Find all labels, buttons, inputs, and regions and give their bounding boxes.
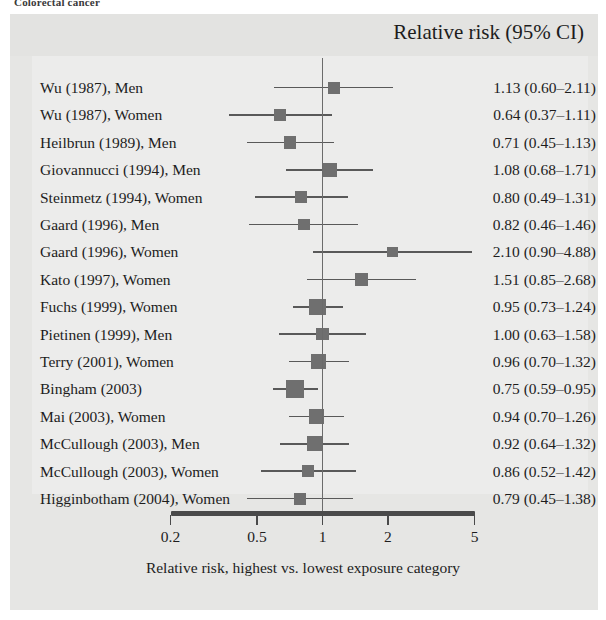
- study-label: Gaard (1996), Women: [40, 238, 178, 266]
- x-axis-tick: [256, 515, 257, 525]
- point-estimate-marker: [307, 436, 322, 451]
- point-estimate-marker: [298, 219, 310, 231]
- study-label: McCullough (2003), Men: [40, 430, 200, 458]
- effect-estimate-value: 0.96 (0.70–1.32): [493, 348, 596, 376]
- x-axis-tick-label: 1: [319, 528, 327, 546]
- x-axis-tick-label: 5: [471, 528, 479, 546]
- study-label: Mai (2003), Women: [40, 403, 165, 431]
- forest-row: Steinmetz (1994), Women0.80 (0.49–1.31): [0, 184, 606, 212]
- forest-row: Fuchs (1999), Women0.95 (0.73–1.24): [0, 293, 606, 321]
- reference-line-null-effect: [322, 58, 323, 520]
- forest-row: Giovannucci (1994), Men1.08 (0.68–1.71): [0, 156, 606, 184]
- x-axis-tick: [387, 515, 388, 525]
- point-estimate-marker: [274, 109, 286, 121]
- forest-row: Gaard (1996), Men0.82 (0.46–1.46): [0, 211, 606, 239]
- study-label: Steinmetz (1994), Women: [40, 184, 202, 212]
- point-estimate-marker: [302, 465, 314, 477]
- study-label: Higginbotham (2004), Women: [40, 485, 230, 513]
- forest-row: Higginbotham (2004), Women0.79 (0.45–1.3…: [0, 485, 606, 513]
- point-estimate-marker: [286, 380, 304, 398]
- effect-estimate-value: 1.08 (0.68–1.71): [493, 156, 596, 184]
- forest-row: McCullough (2003), Women0.86 (0.52–1.42): [0, 458, 606, 486]
- effect-estimate-value: 0.82 (0.46–1.46): [493, 211, 596, 239]
- forest-row: Kato (1997), Women1.51 (0.85–2.68): [0, 266, 606, 294]
- x-axis-tick: [170, 515, 171, 525]
- point-estimate-marker: [355, 273, 367, 285]
- study-label: Gaard (1996), Men: [40, 211, 159, 239]
- x-axis-tick-label: 0.5: [247, 528, 266, 546]
- effect-estimate-value: 0.86 (0.52–1.42): [493, 458, 596, 486]
- study-label: Pietinen (1999), Men: [40, 321, 172, 349]
- x-axis-tick: [474, 515, 475, 525]
- effect-estimate-value: 2.10 (0.90–4.88): [493, 238, 596, 266]
- point-estimate-marker: [387, 247, 398, 258]
- effect-estimate-value: 0.75 (0.59–0.95): [493, 375, 596, 403]
- forest-row: Pietinen (1999), Men1.00 (0.63–1.58): [0, 321, 606, 349]
- study-label: Wu (1987), Women: [40, 101, 162, 129]
- point-estimate-marker: [311, 354, 326, 369]
- forest-row: Heilbrun (1989), Men0.71 (0.45–1.13): [0, 129, 606, 157]
- forest-row: Wu (1987), Women0.64 (0.37–1.11): [0, 101, 606, 129]
- point-estimate-marker: [328, 82, 340, 94]
- effect-estimate-value: 1.00 (0.63–1.58): [493, 321, 596, 349]
- x-axis-tick-label: 2: [384, 528, 392, 546]
- effect-estimate-value: 0.64 (0.37–1.11): [493, 101, 596, 129]
- study-label: Bingham (2003): [40, 375, 142, 403]
- study-label: Heilbrun (1989), Men: [40, 129, 176, 157]
- study-label: Kato (1997), Women: [40, 266, 171, 294]
- forest-row: Terry (2001), Women0.96 (0.70–1.32): [0, 348, 606, 376]
- study-label: Wu (1987), Men: [40, 74, 143, 102]
- point-estimate-marker: [294, 493, 306, 505]
- forest-row: Gaard (1996), Women2.10 (0.90–4.88): [0, 238, 606, 266]
- effect-estimate-value: 1.51 (0.85–2.68): [493, 266, 596, 294]
- effect-estimate-value: 0.80 (0.49–1.31): [493, 184, 596, 212]
- x-axis-tick-label: 0.2: [161, 528, 180, 546]
- study-label: Giovannucci (1994), Men: [40, 156, 201, 184]
- point-estimate-marker: [323, 163, 337, 177]
- study-label: Fuchs (1999), Women: [40, 293, 178, 321]
- effect-estimate-value: 1.13 (0.60–2.11): [493, 74, 596, 102]
- forest-row: Wu (1987), Men1.13 (0.60–2.11): [0, 74, 606, 102]
- forest-rows-layer: Wu (1987), Men1.13 (0.60–2.11)Wu (1987),…: [0, 0, 606, 620]
- study-label: Terry (2001), Women: [40, 348, 174, 376]
- effect-estimate-value: 0.92 (0.64–1.32): [493, 430, 596, 458]
- effect-estimate-value: 0.79 (0.45–1.38): [493, 485, 596, 513]
- x-axis-tick: [322, 515, 323, 525]
- point-estimate-marker: [284, 136, 296, 148]
- forest-plot-figure: Colorectal cancer Relative risk (95% CI)…: [0, 0, 606, 620]
- forest-row: Mai (2003), Women0.94 (0.70–1.26): [0, 403, 606, 431]
- forest-row: Bingham (2003)0.75 (0.59–0.95): [0, 375, 606, 403]
- effect-estimate-value: 0.94 (0.70–1.26): [493, 403, 596, 431]
- x-axis-label: Relative risk, highest vs. lowest exposu…: [0, 559, 606, 577]
- point-estimate-marker: [295, 191, 307, 203]
- effect-estimate-value: 0.95 (0.73–1.24): [493, 293, 596, 321]
- effect-estimate-value: 0.71 (0.45–1.13): [493, 129, 596, 157]
- forest-row: McCullough (2003), Men0.92 (0.64–1.32): [0, 430, 606, 458]
- point-estimate-marker: [309, 299, 326, 316]
- study-label: McCullough (2003), Women: [40, 458, 219, 486]
